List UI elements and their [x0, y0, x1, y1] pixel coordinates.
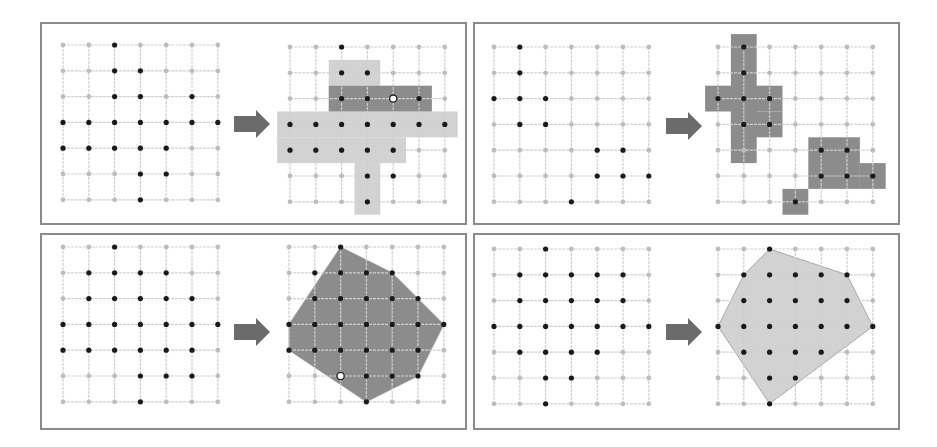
selected-point — [338, 322, 343, 327]
selected-point — [715, 324, 720, 329]
grid-point — [767, 70, 772, 75]
arrow-right-icon — [234, 318, 270, 346]
selected-point — [215, 322, 220, 327]
grid-point — [441, 270, 446, 275]
grid-point — [741, 376, 746, 381]
grid-point — [215, 270, 220, 275]
grid-point — [716, 174, 721, 179]
selected-point — [138, 197, 143, 202]
selected-point — [390, 270, 395, 275]
selected-point — [138, 120, 143, 125]
grid-point — [621, 247, 626, 252]
selected-point — [365, 199, 370, 204]
grid-point — [492, 401, 497, 406]
grid-point — [845, 122, 850, 127]
grid-point — [364, 245, 369, 250]
selected-point — [844, 324, 849, 329]
grid-point — [621, 122, 626, 127]
grid-point — [595, 199, 600, 204]
selected-point — [138, 348, 143, 353]
grid-point — [492, 148, 497, 153]
grid-point — [86, 68, 91, 73]
selected-point — [112, 146, 117, 151]
grid-point — [517, 401, 522, 406]
selected-point — [793, 298, 798, 303]
selected-point — [164, 270, 169, 275]
selected-point — [189, 348, 194, 353]
grid-point — [86, 94, 91, 99]
selected-point — [517, 96, 522, 101]
selected-point — [138, 171, 143, 176]
grid-point — [517, 174, 522, 179]
grid-point — [569, 401, 574, 406]
grid-point — [112, 374, 117, 379]
grid-point — [870, 199, 875, 204]
grid-point — [442, 96, 447, 101]
selected-point — [313, 122, 318, 127]
grid-point — [819, 376, 824, 381]
grid-point — [416, 399, 421, 404]
grid-point — [716, 272, 721, 277]
selected-point — [60, 322, 65, 327]
selected-point — [767, 324, 772, 329]
selected-point — [415, 322, 420, 327]
selected-point — [416, 122, 421, 127]
grid-point — [61, 270, 66, 275]
selected-point — [819, 148, 824, 153]
selected-point — [365, 70, 370, 75]
selected-point — [312, 296, 317, 301]
grid-point — [716, 122, 721, 127]
selected-point — [793, 350, 798, 355]
selected-point — [595, 350, 600, 355]
grid-point — [391, 199, 396, 204]
grid-point — [870, 122, 875, 127]
selected-point — [164, 146, 169, 151]
selected-point — [819, 173, 824, 178]
arrow-right-icon — [666, 112, 702, 140]
selected-point — [60, 348, 65, 353]
selected-point — [620, 272, 625, 277]
grid-point — [767, 199, 772, 204]
grid-point — [870, 401, 875, 406]
grid-point — [313, 45, 318, 50]
grid-point — [164, 197, 169, 202]
grid-point — [595, 70, 600, 75]
selected-point — [339, 96, 344, 101]
selected-point — [164, 348, 169, 353]
grid-point — [767, 174, 772, 179]
grid-point — [441, 245, 446, 250]
grid-point — [767, 45, 772, 50]
grid-point — [716, 148, 721, 153]
selected-point — [870, 324, 875, 329]
grid-point — [61, 94, 66, 99]
selected-point — [364, 322, 369, 327]
grid-point — [716, 70, 721, 75]
grid-point — [312, 374, 317, 379]
selected-point — [364, 296, 369, 301]
grid-point — [61, 43, 66, 48]
grid-point — [492, 350, 497, 355]
selected-point — [715, 96, 720, 101]
grid-point — [767, 148, 772, 153]
selected-point — [391, 122, 396, 127]
selected-point — [164, 322, 169, 327]
grid-point — [646, 70, 651, 75]
grid-point — [312, 245, 317, 250]
grid-point — [793, 174, 798, 179]
grid-point — [870, 350, 875, 355]
selected-point — [364, 399, 369, 404]
selected-point — [620, 324, 625, 329]
selected-point — [112, 244, 117, 249]
selected-point — [491, 324, 496, 329]
grid-point — [492, 122, 497, 127]
selected-point — [390, 348, 395, 353]
grid-point — [646, 376, 651, 381]
grid-point — [793, 401, 798, 406]
selected-point — [112, 42, 117, 47]
grid-point — [517, 199, 522, 204]
selected-point — [517, 122, 522, 127]
selected-point — [286, 348, 291, 353]
selected-point — [112, 68, 117, 73]
selected-point — [767, 401, 772, 406]
grid-point — [215, 296, 220, 301]
